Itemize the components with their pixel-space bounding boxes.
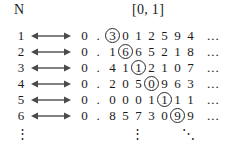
decimal-digit: 1 (184, 92, 197, 108)
decimal-digit: 1 (132, 60, 145, 76)
leading-zero: 0 (80, 108, 89, 124)
decimal-digit: 2 (158, 44, 171, 60)
double-headed-arrow-icon (31, 108, 71, 124)
decimal-digit: 0 (132, 92, 145, 108)
row-index-label: 4 (16, 76, 26, 92)
decimal-digit: 4 (106, 60, 119, 76)
decimal-digit: 3 (145, 108, 158, 124)
decimal-point: . (94, 108, 102, 124)
double-headed-arrow-icon (31, 60, 71, 76)
decimal-digit: 9 (171, 108, 184, 124)
decimal-digit: 5 (132, 76, 145, 92)
row-index-label: 1 (16, 28, 26, 44)
decimal-point: . (94, 60, 102, 76)
enumeration-row: 50.0001111... (0, 92, 240, 108)
row-index-label: 5 (16, 92, 26, 108)
decimal-digit: 4 (184, 28, 197, 44)
enumeration-row: 60.8573099... (0, 108, 240, 124)
leading-zero: 0 (80, 60, 89, 76)
decimal-digit: 7 (184, 60, 197, 76)
row-continuation-ellipsis: ... (207, 60, 220, 76)
row-index-label: 2 (16, 44, 26, 60)
decimal-digit: 6 (171, 76, 184, 92)
decimal-digit: 5 (119, 108, 132, 124)
decimal-digit: 0 (158, 108, 171, 124)
decimal-digit: 2 (106, 76, 119, 92)
decimal-digit: 0 (119, 76, 132, 92)
leading-zero: 0 (80, 92, 89, 108)
row-continuation-ellipsis: ... (207, 76, 220, 92)
enumeration-row: 30.4112107... (0, 60, 240, 76)
decimal-point: . (94, 28, 102, 44)
decimal-digit: 1 (132, 28, 145, 44)
decimal-digit: 2 (145, 28, 158, 44)
decimal-digit: 5 (158, 28, 171, 44)
decimal-digit: 1 (119, 60, 132, 76)
decimal-digit: 8 (184, 44, 197, 60)
row-index-label: 3 (16, 60, 26, 76)
decimal-digit: 8 (106, 108, 119, 124)
leading-zero: 0 (80, 44, 89, 60)
double-headed-arrow-icon (31, 44, 71, 60)
enumeration-row: 40.2050963... (0, 76, 240, 92)
decimal-digit: 1 (171, 44, 184, 60)
decimal-digit: 0 (106, 92, 119, 108)
decimals-column-ellipsis: ⋮ (131, 126, 141, 142)
index-column-ellipsis: ⋮ (16, 126, 26, 142)
decimal-digit: 9 (171, 28, 184, 44)
row-continuation-ellipsis: ... (207, 44, 220, 60)
leading-zero: 0 (80, 28, 89, 44)
decimal-digit: 0 (119, 92, 132, 108)
natural-numbers-column-header: N (14, 3, 24, 17)
decimal-digit: 1 (158, 92, 171, 108)
decimal-digit: 2 (145, 60, 158, 76)
decimal-point: . (94, 76, 102, 92)
decimal-digit: 3 (106, 28, 119, 44)
decimal-digit: 6 (119, 44, 132, 60)
double-headed-arrow-icon (31, 92, 71, 108)
double-headed-arrow-icon (31, 28, 71, 44)
row-index-label: 6 (16, 108, 26, 124)
decimal-digit: 0 (145, 76, 158, 92)
decimal-digit: 1 (106, 44, 119, 60)
decimal-digit: 5 (145, 44, 158, 60)
decimal-digit: 6 (132, 44, 145, 60)
decimal-digit: 0 (171, 60, 184, 76)
leading-zero: 0 (80, 76, 89, 92)
decimal-point: . (94, 44, 102, 60)
decimal-digit: 1 (145, 92, 158, 108)
decimal-digit: 0 (119, 28, 132, 44)
decimal-digit: 9 (158, 76, 171, 92)
cantor-diagonal-figure: N [0, 1] 10.3012594...20.1665218...30.41… (0, 0, 240, 147)
decimal-digit: 9 (184, 108, 197, 124)
decimal-point: . (94, 92, 102, 108)
diagonal-ellipsis: ⋱ (181, 126, 195, 142)
double-headed-arrow-icon (31, 76, 71, 92)
row-continuation-ellipsis: ... (207, 28, 220, 44)
decimal-digit: 1 (171, 92, 184, 108)
enumeration-row: 10.3012594... (0, 28, 240, 44)
decimal-digit: 1 (158, 60, 171, 76)
decimal-digit: 7 (132, 108, 145, 124)
unit-interval-column-header: [0, 1] (132, 3, 164, 17)
enumeration-row: 20.1665218... (0, 44, 240, 60)
row-continuation-ellipsis: ... (207, 108, 220, 124)
row-continuation-ellipsis: ... (207, 92, 220, 108)
decimal-digit: 3 (184, 76, 197, 92)
